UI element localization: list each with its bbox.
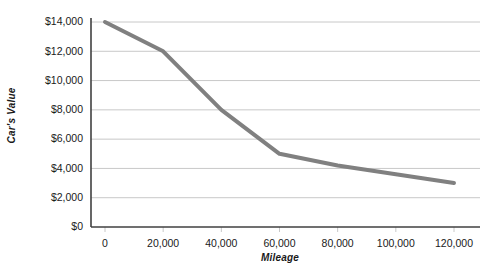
x-tick-label: 100,000 bbox=[377, 237, 415, 249]
y-tick-label: $10,000 bbox=[45, 74, 83, 86]
data-series-line bbox=[105, 22, 454, 183]
x-tick-label: 20,000 bbox=[147, 237, 179, 249]
y-tick-label: $12,000 bbox=[45, 45, 83, 57]
x-tick-label: 60,000 bbox=[263, 237, 295, 249]
plot-area: $0$2,000$4,000$6,000$8,000$10,000$12,000… bbox=[0, 0, 493, 277]
y-tick-label: $4,000 bbox=[51, 162, 83, 174]
x-tick-label: 0 bbox=[102, 237, 108, 249]
y-tick-label: $14,000 bbox=[45, 15, 83, 27]
x-tick-label: 40,000 bbox=[205, 237, 237, 249]
y-tick-label: $6,000 bbox=[51, 132, 83, 144]
y-tick-label: $8,000 bbox=[51, 103, 83, 115]
gridlines bbox=[91, 22, 480, 198]
x-tick-label: 120,000 bbox=[435, 237, 473, 249]
y-tick-labels: $0$2,000$4,000$6,000$8,000$10,000$12,000… bbox=[45, 15, 83, 232]
x-axis-title: Mileage bbox=[105, 252, 455, 263]
x-tick-label: 80,000 bbox=[322, 237, 354, 249]
x-tick-labels: 020,00040,00060,00080,000100,000120,000 bbox=[102, 237, 473, 249]
y-tick-label: $0 bbox=[71, 220, 83, 232]
y-tick-label: $2,000 bbox=[51, 191, 83, 203]
axis-lines bbox=[91, 18, 480, 227]
line-chart: Car's Value $0$2,000$4,000$6,000$8,000$1… bbox=[0, 0, 493, 277]
